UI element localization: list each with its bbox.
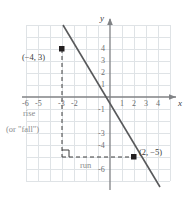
y-tick-2: 2 bbox=[101, 69, 105, 77]
point-marker-b bbox=[131, 154, 137, 160]
y-axis-label: y bbox=[100, 14, 104, 23]
x-tick-2: 2 bbox=[132, 100, 136, 108]
x-tick--2: -2 bbox=[71, 100, 78, 108]
y-axis-arrow bbox=[107, 18, 113, 25]
x-tick--3: -3 bbox=[58, 100, 65, 108]
x-tick-3: 3 bbox=[144, 100, 148, 108]
y-tick--4: -4 bbox=[98, 142, 105, 150]
rise-label: rise bbox=[23, 109, 35, 118]
right-angle-marker bbox=[62, 150, 69, 157]
y-tick--1: -1 bbox=[98, 106, 105, 114]
point-label-a: (−4, 3) bbox=[22, 53, 45, 62]
y-tick-4: 4 bbox=[101, 45, 105, 53]
y-tick-3: 3 bbox=[101, 57, 105, 65]
x-tick--5: -5 bbox=[35, 100, 42, 108]
fall-label: (or "fall") bbox=[6, 125, 39, 134]
y-tick--6: -6 bbox=[98, 166, 105, 174]
run-label: run bbox=[80, 161, 91, 170]
y-tick-1: 1 bbox=[101, 81, 105, 89]
x-tick-1: 1 bbox=[120, 100, 124, 108]
y-tick--3: -3 bbox=[98, 130, 105, 138]
grid-lines bbox=[26, 25, 170, 181]
x-tick--6: -6 bbox=[22, 100, 29, 108]
x-tick-4: 4 bbox=[156, 100, 160, 108]
point-marker-a bbox=[59, 46, 65, 52]
x-axis-arrow bbox=[169, 94, 176, 100]
x-axis-label: x bbox=[178, 99, 182, 108]
slope-diagram: y x -6 -5 -3 -2 1 2 3 4 4 3 2 1 -1 -3 -4… bbox=[0, 0, 191, 199]
point-label-b: (2, −5) bbox=[139, 148, 162, 157]
